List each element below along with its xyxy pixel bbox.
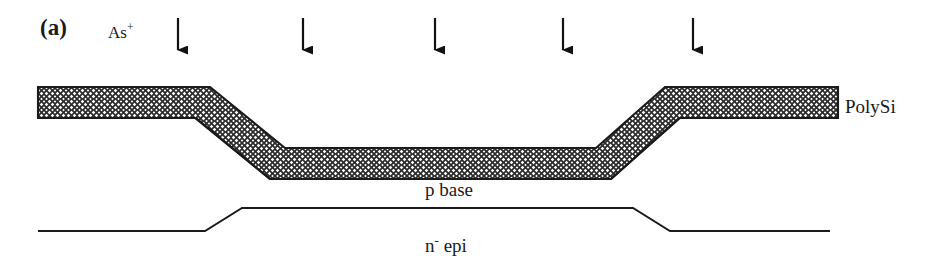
implant-species-label: As+: [108, 24, 133, 41]
panel-label: (a): [40, 16, 67, 39]
n-epi-rest: epi: [439, 235, 467, 256]
n-epi-base: n: [425, 235, 435, 256]
device-cross-section-diagram: [0, 0, 946, 274]
implant-arrows: [178, 18, 693, 50]
figure-panel-a: (a) As+ PolySi p base n- epi: [0, 0, 946, 274]
polysi-layer-label: PolySi: [845, 97, 896, 116]
p-base-junction-line: [38, 208, 830, 231]
implant-species-base: As: [108, 23, 127, 42]
p-base-layer-label: p base: [425, 180, 473, 199]
n-epi-layer-label: n- epi: [425, 236, 467, 255]
implant-species-charge: +: [127, 21, 134, 34]
polysilicon-layer: [30, 80, 850, 190]
